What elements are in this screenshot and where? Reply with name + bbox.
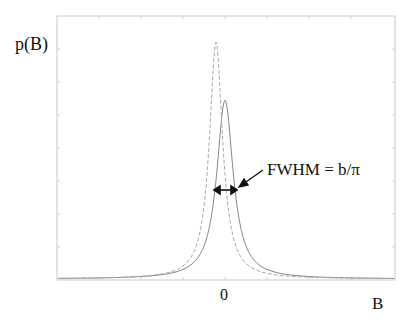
fwhm-annotation: FWHM = b/π xyxy=(267,160,360,180)
x-axis-label: B xyxy=(372,294,383,314)
fwhm-double-arrow xyxy=(214,186,237,194)
tick-marks xyxy=(57,16,395,280)
y-axis-label: p(B) xyxy=(15,34,48,55)
annotation-arrow xyxy=(239,170,263,187)
axes-box xyxy=(57,16,395,280)
x-tick-label-0: 0 xyxy=(220,286,228,304)
